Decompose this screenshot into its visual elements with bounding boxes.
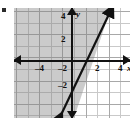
y-axis-label: y (76, 10, 80, 19)
y-tick-label--2: –2 (58, 81, 67, 90)
x-tick-label--2: –2 (58, 64, 67, 73)
y-tick-label-4: 4 (61, 12, 66, 21)
figure-root: –4 –2 2 4 x 4 2 –2 y (0, 0, 136, 125)
x-tick-label--4: –4 (35, 64, 44, 73)
x-tick-label-4: 4 (118, 64, 123, 73)
x-tick-label-2: 2 (95, 64, 100, 73)
y-tick-label-2: 2 (61, 35, 66, 44)
coordinate-plane: –4 –2 2 4 x 4 2 –2 y (14, 8, 130, 118)
bullet-marker (2, 8, 6, 12)
x-axis-label: x (127, 64, 130, 73)
boundary-line (14, 8, 130, 118)
